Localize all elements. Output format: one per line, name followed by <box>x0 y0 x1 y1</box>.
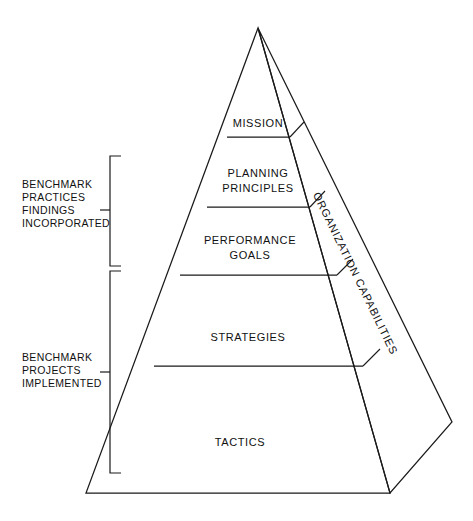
bracket-label-benchmark-practices-line4: INCORPORATED <box>22 217 110 229</box>
side-panel-label-organization-capabilities: ORGANIZATION CAPABILITIES <box>311 190 400 356</box>
side-tick-mission <box>290 122 304 137</box>
pyramid-diagram: MISSION PLANNING PRINCIPLES PERFORMANCE … <box>0 0 473 521</box>
bracket-label-benchmark-projects-line3: IMPLEMENTED <box>22 377 102 389</box>
bracket-benchmark-projects <box>110 271 121 473</box>
tier-label-strategies: STRATEGIES <box>211 331 286 343</box>
bracket-label-benchmark-projects-line1: BENCHMARK <box>22 351 92 363</box>
bracket-label-benchmark-practices-line2: PRACTICES <box>22 191 85 203</box>
bracket-benchmark-practices <box>110 156 121 266</box>
tier-label-mission: MISSION <box>233 117 284 129</box>
bracket-label-benchmark-projects-line2: PROJECTS <box>22 364 81 376</box>
bracket-label-benchmark-practices-line1: BENCHMARK <box>22 178 92 190</box>
tier-label-performance-line2: GOALS <box>230 249 271 261</box>
side-tick-strategies <box>363 349 380 366</box>
bracket-label-benchmark-practices-line3: FINDINGS <box>22 204 75 216</box>
tier-label-planning-line2: PRINCIPLES <box>222 182 293 194</box>
pyramid-figure: MISSION PLANNING PRINCIPLES PERFORMANCE … <box>0 0 473 521</box>
tier-label-tactics: TACTICS <box>215 436 265 448</box>
tier-label-performance-line1: PERFORMANCE <box>204 234 296 246</box>
tier-label-planning-line1: PLANNING <box>227 167 288 179</box>
